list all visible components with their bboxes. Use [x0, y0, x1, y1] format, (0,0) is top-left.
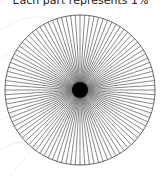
center-dot	[72, 82, 88, 98]
fraction-circle	[0, 0, 161, 176]
